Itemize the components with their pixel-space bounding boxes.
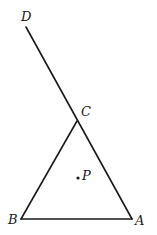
label-p: P	[81, 168, 91, 183]
segment-da	[26, 27, 132, 219]
label-a: A	[134, 213, 144, 228]
label-c: C	[81, 104, 91, 119]
segment-bc	[21, 121, 77, 219]
geometry-figure: D C B A P	[0, 0, 157, 235]
label-b: B	[7, 212, 18, 227]
point-p-dot	[76, 176, 79, 179]
label-d: D	[20, 9, 32, 24]
